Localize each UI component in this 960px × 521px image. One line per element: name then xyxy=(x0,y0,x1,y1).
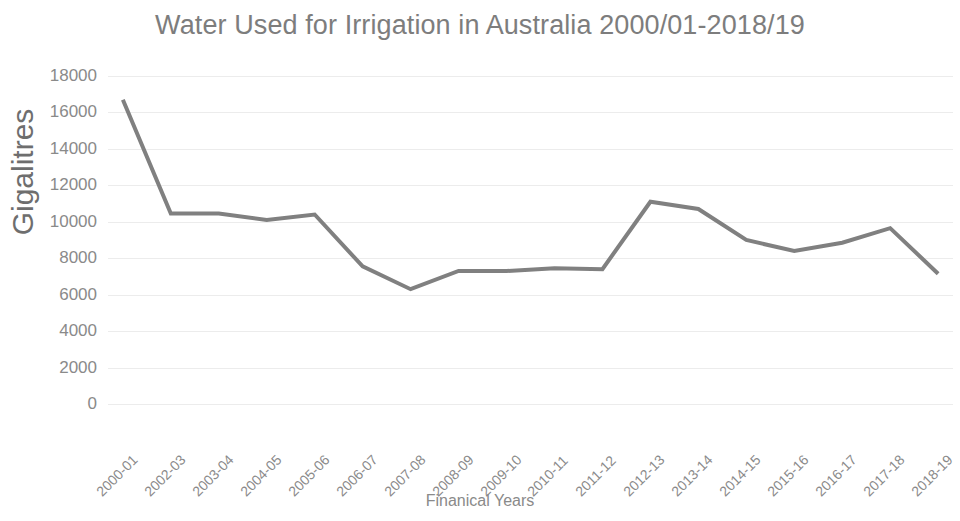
series-polyline xyxy=(123,100,938,290)
y-axis-title: Gigalitres xyxy=(6,52,40,292)
gridline xyxy=(108,404,953,405)
y-axis-tick-label: 4000 xyxy=(59,321,97,341)
y-axis-tick-label: 10000 xyxy=(50,212,97,232)
data-series-line xyxy=(108,76,953,404)
y-axis-tick-label: 2000 xyxy=(59,358,97,378)
y-axis-tick-label: 16000 xyxy=(50,102,97,122)
y-axis-tick-label: 14000 xyxy=(50,139,97,159)
y-axis-tick-label: 6000 xyxy=(59,285,97,305)
y-axis-tick-label: 0 xyxy=(88,394,97,414)
y-axis-tick-label: 8000 xyxy=(59,248,97,268)
plot-area: 1800016000140001200010000800060004000200… xyxy=(108,76,953,404)
x-axis-title: Finanical Years xyxy=(0,492,960,510)
y-axis-tick-label: 18000 xyxy=(50,66,97,86)
chart-title: Water Used for Irrigation in Australia 2… xyxy=(0,10,960,41)
chart-container: Water Used for Irrigation in Australia 2… xyxy=(0,0,960,521)
y-axis-tick-label: 12000 xyxy=(50,175,97,195)
